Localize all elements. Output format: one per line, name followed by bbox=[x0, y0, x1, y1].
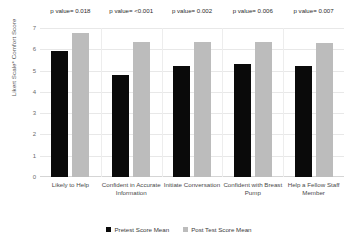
y-axis-tick-label: 7 bbox=[33, 25, 36, 31]
y-axis-tick-label: 3 bbox=[33, 110, 36, 116]
y-axis-tick-label: 0 bbox=[33, 174, 36, 180]
legend-label: Post Test Score Mean bbox=[191, 226, 251, 233]
bar-pretest bbox=[173, 66, 190, 177]
p-value-annotation: p value= 0.007 bbox=[283, 7, 344, 14]
y-axis-tick-label: 5 bbox=[33, 68, 36, 74]
bar-posttest bbox=[255, 42, 272, 177]
p-value-annotation: p value= 0.002 bbox=[162, 7, 223, 14]
legend-swatch-icon bbox=[183, 227, 188, 232]
bar-pretest bbox=[234, 64, 251, 177]
p-value-annotation: p value= <0.001 bbox=[101, 7, 162, 14]
y-axis-title: Likert Scale* Comfort Score bbox=[10, 0, 17, 123]
p-value-annotation: p value= 0.018 bbox=[40, 7, 101, 14]
bar-posttest bbox=[133, 42, 150, 177]
y-axis-tick-label: 4 bbox=[33, 89, 36, 95]
y-axis-tick-label: 1 bbox=[33, 153, 36, 159]
chart-legend: Pretest Score MeanPost Test Score Mean bbox=[0, 226, 358, 233]
bar-pretest bbox=[112, 75, 129, 177]
p-value-annotation: p value= 0.006 bbox=[222, 7, 283, 14]
bar-group: p value= <0.001 bbox=[101, 28, 162, 177]
legend-item: Pretest Score Mean bbox=[106, 226, 169, 233]
bar-group: p value= 0.006 bbox=[222, 28, 283, 177]
bar-posttest bbox=[316, 43, 333, 177]
bar-chart: Likert Scale* Comfort Score 01234567p va… bbox=[0, 0, 358, 240]
x-axis-category-label: Confident in Accurate Information bbox=[101, 181, 162, 198]
y-axis-tick-label: 2 bbox=[33, 131, 36, 137]
bar-pretest bbox=[51, 51, 68, 177]
legend-item: Post Test Score Mean bbox=[183, 226, 251, 233]
plot-area: 01234567p value= 0.018p value= <0.001p v… bbox=[40, 28, 344, 177]
x-axis-category-label: Likely to Help bbox=[40, 181, 101, 189]
bar-posttest bbox=[72, 33, 89, 177]
bar-group: p value= 0.018 bbox=[40, 28, 101, 177]
bar-group: p value= 0.002 bbox=[162, 28, 223, 177]
legend-label: Pretest Score Mean bbox=[114, 226, 169, 233]
y-axis-tick-label: 6 bbox=[33, 46, 36, 52]
x-axis-category-label: Help a Fellow Staff Member bbox=[283, 181, 344, 198]
bar-pretest bbox=[295, 66, 312, 177]
legend-swatch-icon bbox=[106, 227, 111, 232]
x-axis-category-label: Confident with Breast Pump bbox=[222, 181, 283, 198]
x-axis-category-label: Initiate Conversation bbox=[162, 181, 223, 189]
bar-group: p value= 0.007 bbox=[283, 28, 344, 177]
bar-posttest bbox=[194, 42, 211, 177]
